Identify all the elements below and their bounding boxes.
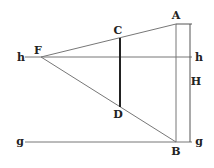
label-d: D [113, 108, 123, 121]
label-a: A [171, 9, 181, 22]
label-h-height: H [191, 75, 201, 88]
label-g-right: g [195, 135, 203, 148]
ray-fb [41, 57, 176, 142]
label-h-right: h [195, 51, 203, 64]
label-c: C [114, 24, 123, 37]
perspective-diagram: A B C D F H h h g g [0, 0, 214, 168]
label-f: F [34, 44, 42, 57]
label-b: B [171, 145, 180, 158]
label-h-left: h [17, 51, 25, 64]
ray-fa [41, 24, 176, 57]
label-g-left: g [16, 135, 24, 148]
